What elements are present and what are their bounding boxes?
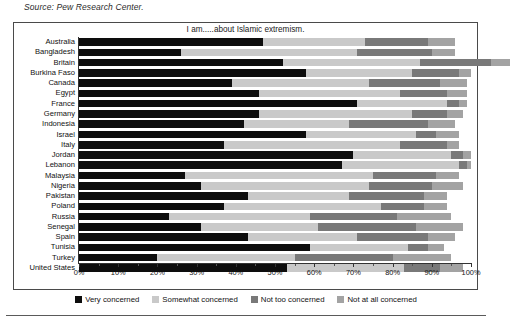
legend-swatch-icon — [337, 296, 344, 303]
category-label: Nigeria — [51, 182, 75, 190]
bar-segment — [181, 49, 357, 57]
category-label: Poland — [51, 202, 75, 210]
stacked-bar — [79, 151, 471, 159]
chart-row: Australia — [79, 37, 471, 47]
x-tick-label: 60% — [307, 268, 322, 277]
x-tick-label: 10% — [111, 268, 126, 277]
bar-segment — [369, 79, 440, 87]
x-minor-tick — [138, 264, 139, 266]
chart-frame: I am.....about Islamic extremism. Austra… — [13, 22, 478, 290]
stacked-bar — [79, 69, 471, 77]
bar-segment — [353, 151, 451, 159]
bar-segment — [169, 213, 310, 221]
bar-segment — [295, 254, 393, 262]
bar-segment — [79, 203, 224, 211]
chart-row: Russia — [79, 212, 471, 222]
chart-row: Indonesia — [79, 119, 471, 129]
bar-segment — [306, 69, 412, 77]
chart-row: Lebanon — [79, 160, 471, 170]
category-label: Australia — [45, 38, 75, 46]
bar-segment — [432, 182, 463, 190]
bar-segment — [310, 213, 396, 221]
x-tick-mark — [432, 264, 433, 267]
bar-segment — [248, 192, 350, 200]
chart-row: Tunisia — [79, 242, 471, 252]
bar-segment — [79, 254, 157, 262]
bar-segment — [400, 90, 447, 98]
stacked-bar — [79, 172, 471, 180]
stacked-bar — [79, 79, 471, 87]
bar-segment — [79, 131, 306, 139]
stacked-bar — [79, 203, 471, 211]
chart-row: Turkey — [79, 253, 471, 263]
category-label: Malaysia — [45, 172, 75, 180]
bar-segment — [467, 161, 471, 169]
bar-segment — [424, 192, 448, 200]
category-label: Burkina Faso — [30, 69, 75, 77]
bar-segment — [416, 223, 463, 231]
bar-segment — [79, 151, 353, 159]
chart-row: Bangladesh — [79, 47, 471, 57]
category-label: Indonesia — [42, 120, 75, 128]
legend-item: Not at all concerned — [337, 295, 416, 304]
bar-segment — [432, 49, 456, 57]
bar-segment — [185, 172, 373, 180]
legend-swatch-icon — [152, 296, 159, 303]
bar-segment — [365, 38, 428, 46]
stacked-bar — [79, 161, 471, 169]
legend-item: Somewhat concerned — [152, 295, 237, 304]
x-tick-mark — [197, 264, 198, 267]
x-tick-label: 50% — [268, 268, 283, 277]
chart-title: I am.....about Islamic extremism. — [14, 25, 477, 34]
category-label: France — [51, 100, 75, 108]
bar-segment — [400, 141, 447, 149]
bar-segment — [224, 203, 381, 211]
bar-segment — [412, 110, 447, 118]
bar-segment — [224, 141, 400, 149]
x-tick-label: 0% — [74, 268, 85, 277]
stacked-bar — [79, 182, 471, 190]
bar-segment — [451, 151, 463, 159]
category-label: Tunisia — [51, 243, 75, 251]
bar-segment — [232, 79, 369, 87]
bar-segment — [428, 233, 455, 241]
bar-segment — [459, 69, 471, 77]
stacked-bar — [79, 59, 471, 67]
x-minor-tick — [99, 264, 100, 266]
bottom-divider — [6, 315, 486, 316]
bar-segment — [79, 79, 232, 87]
chart-row: Italy — [79, 140, 471, 150]
x-tick-mark — [275, 264, 276, 267]
bar-segment — [79, 141, 224, 149]
x-tick-mark — [353, 264, 354, 267]
bar-segment — [79, 49, 181, 57]
bar-segment — [447, 90, 467, 98]
bar-segment — [79, 182, 201, 190]
bar-segment — [428, 120, 455, 128]
bar-segment — [447, 141, 459, 149]
bar-segment — [79, 38, 263, 46]
chart-row: Pakistan — [79, 191, 471, 201]
bar-segment — [79, 244, 310, 252]
bar-segment — [463, 151, 471, 159]
stacked-bar — [79, 233, 471, 241]
stacked-bar — [79, 100, 471, 108]
stacked-bar — [79, 213, 471, 221]
x-minor-tick — [451, 264, 452, 266]
bar-segment — [318, 223, 416, 231]
bar-segment — [79, 172, 185, 180]
chart-row: France — [79, 99, 471, 109]
bar-segment — [420, 59, 491, 67]
chart-row: Britain — [79, 58, 471, 68]
category-label: Bangladesh — [35, 48, 75, 56]
bar-segment — [263, 38, 365, 46]
stacked-bar — [79, 141, 471, 149]
legend-label: Not too concerned — [261, 295, 325, 304]
category-label: United States — [29, 264, 75, 272]
bar-segment — [349, 192, 423, 200]
plot-area: AustraliaBangladeshBritainBurkina FasoCa… — [79, 37, 471, 263]
category-label: Britain — [53, 59, 75, 67]
category-label: Senegal — [47, 223, 75, 231]
bar-segment — [424, 203, 448, 211]
bar-segment — [440, 79, 467, 87]
